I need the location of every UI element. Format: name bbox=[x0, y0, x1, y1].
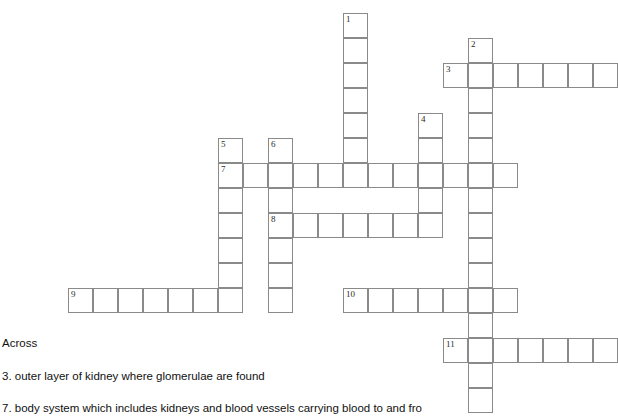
crossword-cell[interactable] bbox=[418, 213, 443, 238]
crossword-cell-number: 1 bbox=[346, 14, 351, 25]
crossword-cell[interactable] bbox=[418, 288, 443, 313]
crossword-cell[interactable] bbox=[93, 288, 118, 313]
crossword-cell[interactable] bbox=[243, 163, 268, 188]
crossword-cell[interactable] bbox=[343, 63, 368, 88]
crossword-cell[interactable] bbox=[168, 288, 193, 313]
crossword-cell-number: 9 bbox=[71, 289, 76, 300]
crossword-cell[interactable] bbox=[593, 63, 618, 88]
crossword-cell[interactable] bbox=[468, 288, 493, 313]
crossword-cell-number: 8 bbox=[271, 214, 276, 225]
crossword-cell[interactable] bbox=[468, 263, 493, 288]
crossword-cell[interactable] bbox=[343, 38, 368, 63]
crossword-cell-number: 2 bbox=[471, 39, 476, 50]
crossword-cell[interactable] bbox=[418, 138, 443, 163]
crossword-cell[interactable] bbox=[368, 288, 393, 313]
crossword-cell[interactable] bbox=[293, 163, 318, 188]
crossword-cell[interactable] bbox=[318, 163, 343, 188]
clues-across-heading: Across bbox=[2, 336, 612, 350]
crossword-cell[interactable]: 2 bbox=[468, 38, 493, 63]
crossword-cell[interactable] bbox=[468, 238, 493, 263]
crossword-cell[interactable] bbox=[343, 163, 368, 188]
crossword-cell[interactable] bbox=[468, 113, 493, 138]
crossword-cell[interactable] bbox=[218, 188, 243, 213]
crossword-cell[interactable] bbox=[468, 313, 493, 338]
crossword-cell[interactable] bbox=[468, 88, 493, 113]
crossword-cell[interactable] bbox=[518, 63, 543, 88]
crossword-cell[interactable] bbox=[218, 213, 243, 238]
crossword-cell-number: 4 bbox=[421, 114, 426, 125]
crossword-cell-number: 3 bbox=[446, 64, 451, 75]
crossword-cell[interactable] bbox=[193, 288, 218, 313]
crossword-cell[interactable] bbox=[393, 163, 418, 188]
crossword-cell[interactable] bbox=[443, 163, 468, 188]
crossword-cell[interactable] bbox=[343, 113, 368, 138]
crossword-cell[interactable]: 6 bbox=[268, 138, 293, 163]
crossword-cell[interactable]: 5 bbox=[218, 138, 243, 163]
crossword-cell[interactable] bbox=[418, 188, 443, 213]
crossword-cell[interactable] bbox=[568, 63, 593, 88]
crossword-cell[interactable] bbox=[468, 213, 493, 238]
clue-item-7: 7. body system which includes kidneys an… bbox=[2, 401, 612, 415]
crossword-cell[interactable]: 4 bbox=[418, 113, 443, 138]
crossword-cell[interactable]: 7 bbox=[218, 163, 243, 188]
crossword-cell[interactable] bbox=[268, 188, 293, 213]
crossword-cell[interactable] bbox=[368, 163, 393, 188]
crossword-cell[interactable] bbox=[118, 288, 143, 313]
crossword-cell[interactable] bbox=[343, 213, 368, 238]
clue-item-3: 3. outer layer of kidney where glomerula… bbox=[2, 369, 612, 383]
crossword-cell[interactable]: 8 bbox=[268, 213, 293, 238]
crossword-cell[interactable] bbox=[393, 213, 418, 238]
crossword-cell[interactable] bbox=[493, 63, 518, 88]
crossword-cell[interactable] bbox=[443, 288, 468, 313]
crossword-cell[interactable] bbox=[493, 163, 518, 188]
crossword-cell[interactable]: 1 bbox=[343, 13, 368, 38]
crossword-cell[interactable] bbox=[343, 88, 368, 113]
crossword-cell[interactable] bbox=[268, 238, 293, 263]
crossword-cell[interactable]: 3 bbox=[443, 63, 468, 88]
crossword-cell[interactable] bbox=[468, 138, 493, 163]
crossword-cell[interactable] bbox=[343, 138, 368, 163]
crossword-cell[interactable] bbox=[218, 288, 243, 313]
crossword-cell[interactable]: 10 bbox=[343, 288, 368, 313]
crossword-cell[interactable] bbox=[218, 263, 243, 288]
crossword-cell[interactable]: 9 bbox=[68, 288, 93, 313]
crossword-cell[interactable] bbox=[468, 63, 493, 88]
crossword-cell[interactable] bbox=[468, 188, 493, 213]
crossword-cell[interactable] bbox=[493, 288, 518, 313]
crossword-cell[interactable] bbox=[468, 163, 493, 188]
crossword-cell[interactable] bbox=[368, 213, 393, 238]
crossword-cell-number: 10 bbox=[346, 289, 355, 300]
crossword-cell-number: 5 bbox=[221, 139, 226, 150]
crossword-cell-number: 7 bbox=[221, 164, 226, 175]
crossword-cell[interactable] bbox=[418, 163, 443, 188]
crossword-cell[interactable] bbox=[218, 238, 243, 263]
crossword-cell[interactable] bbox=[393, 288, 418, 313]
crossword-cell[interactable] bbox=[268, 288, 293, 313]
crossword-cell[interactable] bbox=[318, 213, 343, 238]
crossword-cell-number: 6 bbox=[271, 139, 276, 150]
crossword-cell[interactable] bbox=[143, 288, 168, 313]
crossword-cell[interactable] bbox=[268, 163, 293, 188]
crossword-cell[interactable] bbox=[543, 63, 568, 88]
clues-section: Across 3. outer layer of kidney where gl… bbox=[0, 336, 612, 420]
crossword-cell[interactable] bbox=[268, 263, 293, 288]
crossword-cell[interactable] bbox=[293, 213, 318, 238]
